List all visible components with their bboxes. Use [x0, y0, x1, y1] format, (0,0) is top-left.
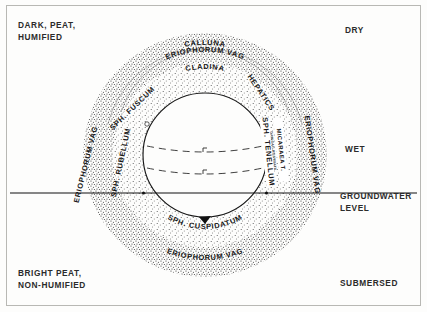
label-dry: DRY	[345, 25, 364, 37]
label-bright-peat-non-humified: BRIGHT PEAT, NON-HUMIFIED	[18, 268, 86, 291]
zonation-diagram: CALLUNA ERIOPHORUM VAG CLADINA SPH. CUSP…	[0, 0, 427, 312]
label-wet: WET	[345, 144, 365, 156]
inner-pool	[143, 93, 267, 217]
label-dark-peat-humified: DARK, PEAT, HUMIFIED	[18, 20, 76, 43]
label-groundwater-level: GROUNDWATER LEVEL	[340, 191, 412, 214]
bog-zonation-figure: CALLUNA ERIOPHORUM VAG CLADINA SPH. CUSP…	[0, 0, 427, 312]
label-submersed: SUBMERSED	[340, 278, 398, 290]
